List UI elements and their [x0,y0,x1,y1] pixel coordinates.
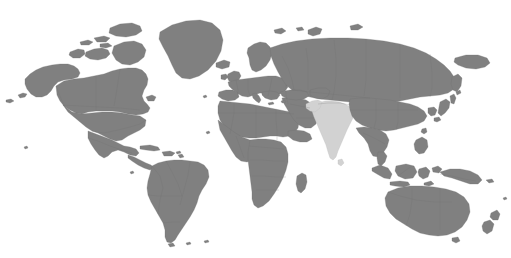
world-map-figure [0,0,511,258]
world-map-svg[interactable] [0,0,511,258]
